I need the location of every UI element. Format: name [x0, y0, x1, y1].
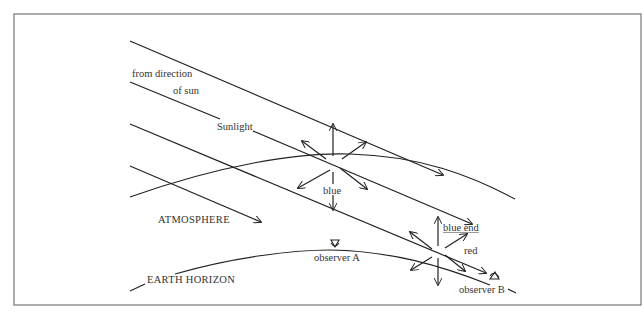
label-from-direction: from direction	[132, 69, 192, 80]
label-blue-end: blue end	[443, 223, 479, 234]
observer-b-eye-icon	[490, 272, 499, 279]
label-observer-b: observer B	[459, 285, 505, 296]
sky-scattering-diagram: from direction of sun Sunlight blue ATMO…	[0, 0, 644, 326]
observer-a-eye-icon	[331, 240, 339, 247]
label-blue: blue	[323, 186, 341, 197]
label-of-sun: of sun	[173, 86, 199, 97]
diagram-canvas	[0, 0, 644, 326]
earth-horizon-tail	[508, 289, 516, 293]
earth-horizon-stub	[130, 284, 145, 291]
label-red: red	[464, 246, 477, 257]
label-atmosphere: ATMOSPHERE	[158, 215, 230, 226]
label-earth-horizon: EARTH HORIZON	[147, 275, 235, 286]
label-observer-a: observer A	[314, 253, 360, 264]
label-sunlight: Sunlight	[217, 122, 253, 133]
scatter-blue-arrows	[298, 124, 367, 210]
sun-ray-1	[130, 41, 443, 175]
